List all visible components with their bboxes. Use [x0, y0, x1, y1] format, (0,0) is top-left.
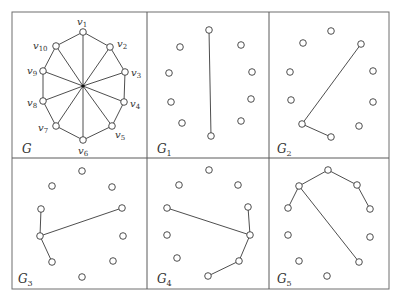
graph-decomposition-figure: v1v2v3v4v5v6v7v8v9v10G G1 G2 G3 G4 G5 — [0, 0, 402, 302]
edge — [40, 236, 52, 262]
vertex — [109, 184, 116, 191]
vertex — [356, 259, 363, 266]
panel-g1-subgraph: G1 — [157, 27, 255, 158]
vertex — [236, 258, 243, 265]
vertex — [238, 118, 245, 125]
panel-label: G — [22, 142, 32, 156]
spoke-edge — [56, 46, 83, 86]
vertex — [287, 69, 294, 76]
cycle-edge — [56, 126, 83, 140]
vertex — [238, 42, 245, 49]
vertex-v3 — [122, 69, 129, 76]
vertex — [288, 97, 295, 104]
spoke-edge — [43, 86, 83, 101]
edge — [299, 186, 359, 262]
vertex-v9 — [40, 68, 47, 75]
vertex-label-v8: v8 — [27, 97, 37, 110]
vertex — [119, 205, 126, 212]
vertex-v6 — [80, 137, 87, 144]
panel-g-wheel-graph: v1v2v3v4v5v6v7v8v9v10G — [22, 16, 141, 158]
spoke-edge — [83, 47, 110, 86]
vertex — [245, 204, 252, 211]
vertex — [176, 182, 183, 189]
vertex-label-v1: v1 — [77, 16, 87, 29]
vertex — [120, 233, 127, 240]
vertex — [370, 68, 377, 75]
edge — [40, 209, 41, 236]
vertex — [296, 258, 303, 265]
vertex — [300, 40, 307, 47]
vertex — [208, 133, 215, 140]
panel-g4-subgraph: G4 — [157, 167, 253, 288]
panel-g2-subgraph: G2 — [277, 28, 376, 158]
vertex — [206, 27, 213, 34]
vertex — [166, 70, 173, 77]
vertex — [249, 69, 256, 76]
edge — [248, 207, 250, 235]
vertex-v7 — [53, 123, 60, 130]
vertex — [79, 168, 86, 175]
edge — [208, 261, 239, 276]
vertex — [206, 167, 213, 174]
vertex — [299, 121, 306, 128]
vertex-label-v10: v10 — [33, 40, 48, 53]
vertex — [179, 120, 186, 127]
spoke-edge — [43, 71, 83, 86]
vertex — [367, 206, 374, 213]
vertex-label-v6: v6 — [78, 145, 89, 158]
vertex — [285, 232, 292, 239]
vertex-label-v9: v9 — [27, 65, 37, 78]
vertex-label-v7: v7 — [38, 122, 48, 135]
vertex — [49, 183, 56, 190]
vertex — [354, 182, 361, 189]
vertex — [370, 99, 377, 106]
panel-g5-subgraph: G5 — [277, 167, 373, 288]
vertex — [177, 44, 184, 51]
vertex — [328, 28, 335, 35]
vertex — [49, 259, 56, 266]
vertex — [168, 99, 175, 106]
edge — [167, 208, 250, 235]
edge — [239, 235, 250, 261]
vertex-label-v2: v2 — [117, 38, 127, 51]
panel-label: G2 — [277, 142, 292, 158]
vertex-v8 — [40, 98, 47, 105]
figure-frame — [12, 12, 389, 289]
vertex — [37, 233, 44, 240]
panel-label: G1 — [157, 142, 172, 158]
panel-label: G4 — [157, 272, 172, 288]
vertex-v4 — [121, 99, 128, 106]
vertex — [110, 258, 117, 265]
cycle-edge — [124, 72, 125, 102]
cycle-edge — [56, 32, 83, 46]
hub-point — [81, 84, 84, 87]
vertex-v1 — [80, 29, 87, 36]
panel-g3-subgraph: G3 — [18, 168, 126, 288]
vertex — [325, 167, 332, 174]
spoke-edge — [83, 72, 125, 86]
vertex-label-v3: v3 — [131, 67, 141, 80]
edge — [302, 44, 361, 124]
vertex — [79, 274, 86, 281]
vertex-v2 — [107, 44, 114, 51]
vertex — [358, 41, 365, 48]
vertex — [285, 205, 292, 212]
edge — [40, 208, 122, 236]
cycle-edge — [83, 32, 110, 47]
vertex — [164, 232, 171, 239]
vertex — [248, 96, 255, 103]
edge — [299, 170, 328, 186]
vertex — [296, 183, 303, 190]
cycle-edge — [112, 102, 124, 126]
edge — [357, 185, 370, 209]
cycle-edge — [83, 126, 112, 140]
vertex-label-v4: v4 — [130, 98, 141, 111]
edge — [328, 170, 357, 185]
vertex — [247, 232, 254, 239]
panel-label: G5 — [277, 272, 292, 288]
vertex-v10 — [53, 43, 60, 50]
edge — [302, 124, 331, 137]
cycle-edge — [43, 101, 56, 126]
vertex — [235, 182, 242, 189]
panel-dividers — [12, 12, 389, 289]
